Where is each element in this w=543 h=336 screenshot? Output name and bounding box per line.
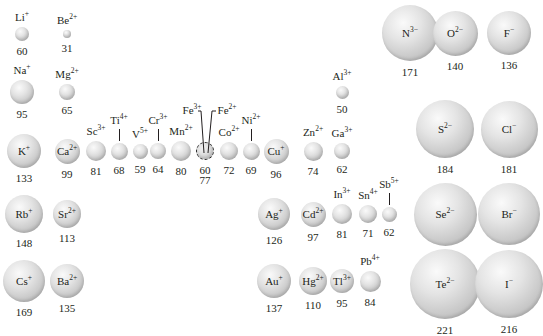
element-symbol: Sb bbox=[379, 178, 391, 190]
ion-charge: 2− bbox=[455, 25, 463, 34]
ion-charge: 2+ bbox=[229, 102, 237, 111]
element-symbol: Cl bbox=[502, 123, 512, 135]
ion-radius-value-2: 77 bbox=[200, 175, 211, 186]
ion-radius-value: 140 bbox=[447, 61, 464, 72]
ion-radius-value: 80 bbox=[176, 166, 187, 177]
ion-label: Cd2+ bbox=[303, 209, 324, 220]
element-symbol: Ga bbox=[332, 127, 345, 139]
ion-label: I− bbox=[505, 279, 513, 290]
ion-sphere-mg bbox=[59, 84, 75, 100]
ion-charge: 3+ bbox=[343, 273, 351, 282]
leader-line bbox=[389, 193, 390, 205]
ion-label: Cs+ bbox=[16, 276, 32, 287]
element-symbol: Rb bbox=[15, 208, 28, 220]
leader-line bbox=[158, 129, 159, 141]
ion-sphere-i: I− bbox=[475, 250, 543, 318]
ion-sphere-al bbox=[336, 86, 349, 99]
ion-charge: 2+ bbox=[68, 206, 76, 215]
element-symbol: Ti bbox=[110, 114, 119, 126]
element-symbol: Hg bbox=[302, 275, 315, 287]
element-symbol: Mg bbox=[55, 68, 70, 80]
element-symbol: Li bbox=[15, 11, 25, 23]
ion-label: Cl− bbox=[502, 124, 517, 135]
ion-charge: + bbox=[28, 206, 32, 215]
ion-radius-value: 221 bbox=[437, 325, 454, 336]
ion-radius-value: 68 bbox=[114, 165, 125, 176]
ion-label: Sr2+ bbox=[58, 209, 76, 220]
ion-label: N3− bbox=[402, 28, 418, 39]
ion-sphere-s: S2− bbox=[416, 100, 474, 158]
ion-charge: 2+ bbox=[315, 206, 323, 215]
leader-line bbox=[119, 129, 120, 141]
ion-charge: + bbox=[279, 206, 283, 215]
ion-label: Cr3+ bbox=[149, 115, 168, 126]
ion-radius-value: 171 bbox=[402, 67, 419, 78]
ion-radius-value: 169 bbox=[16, 307, 33, 318]
ion-charge: + bbox=[280, 143, 284, 152]
ion-radius-value: 50 bbox=[337, 104, 348, 115]
ion-radius-value: 71 bbox=[363, 228, 374, 239]
ion-charge: 2+ bbox=[69, 143, 77, 152]
element-symbol: O bbox=[447, 27, 455, 39]
ion-label: O2− bbox=[447, 28, 463, 39]
ion-label: Sc3+ bbox=[87, 126, 106, 137]
element-symbol: Ag bbox=[265, 208, 278, 220]
ion-sphere-rb: Rb+ bbox=[5, 195, 43, 233]
ion-charge: − bbox=[512, 206, 516, 215]
ion-label: Co2+ bbox=[219, 127, 240, 138]
ion-radius-value: 81 bbox=[337, 229, 348, 240]
ion-sphere-mn bbox=[171, 141, 191, 161]
element-symbol: Na bbox=[13, 64, 26, 76]
element-symbol: Tl bbox=[333, 275, 343, 287]
ion-sphere-ga bbox=[334, 143, 350, 159]
ion-radius-value: 216 bbox=[501, 324, 518, 335]
ion-label: In3+ bbox=[333, 189, 350, 200]
ion-charge: 3− bbox=[410, 25, 418, 34]
ion-label: K+ bbox=[18, 146, 30, 157]
ion-label: Li+ bbox=[15, 12, 29, 23]
element-symbol: Al bbox=[333, 70, 344, 82]
ion-charge: 4+ bbox=[120, 112, 128, 121]
ion-radius-value: 113 bbox=[59, 233, 75, 244]
ion-sphere-br: Br− bbox=[478, 183, 540, 245]
ion-charge: 2+ bbox=[185, 123, 193, 132]
ion-radius-value: 84 bbox=[365, 297, 376, 308]
ion-label: Sb5+ bbox=[379, 179, 399, 190]
ion-label: Au+ bbox=[265, 276, 283, 287]
ion-sphere-v bbox=[133, 144, 148, 159]
ion-radius-value: 62 bbox=[384, 227, 395, 238]
ion-charge: + bbox=[26, 143, 30, 152]
ion-radius-value: 126 bbox=[266, 235, 283, 246]
element-symbol: Cr bbox=[149, 114, 160, 126]
ion-sphere-tl: Tl3+ bbox=[330, 269, 354, 293]
ion-sphere-hg: Hg2+ bbox=[299, 267, 327, 295]
ion-charge: 2− bbox=[446, 276, 454, 285]
ion-label: Tl3+ bbox=[333, 276, 351, 287]
ion-label: Hg2+ bbox=[302, 276, 323, 287]
element-symbol: N bbox=[402, 27, 410, 39]
ion-sphere-o: O2− bbox=[433, 11, 478, 56]
ion-label: Pb4+ bbox=[360, 256, 380, 267]
ion-label: Ni2+ bbox=[242, 115, 261, 126]
ion-charge: 2− bbox=[444, 121, 452, 130]
ion-label: Zn2+ bbox=[303, 127, 323, 138]
ion-sphere-zn bbox=[304, 142, 323, 161]
ion-sphere-li bbox=[15, 27, 29, 41]
ion-sphere-cd: Cd2+ bbox=[301, 202, 326, 227]
ion-charge: 2+ bbox=[69, 273, 77, 282]
ion-radius-value: 69 bbox=[246, 165, 257, 176]
ion-charge: + bbox=[28, 273, 32, 282]
ion-radius-value: 65 bbox=[62, 105, 73, 116]
ion-radius-value: 72 bbox=[224, 165, 235, 176]
element-symbol: Br bbox=[501, 208, 512, 220]
ion-sphere-in bbox=[332, 204, 352, 224]
ion-sphere-n: N3− bbox=[382, 5, 438, 61]
ion-sphere-co bbox=[220, 142, 238, 160]
ion-charge: 3+ bbox=[194, 102, 202, 111]
element-symbol: Cs bbox=[16, 275, 28, 287]
ion-radius-value: 148 bbox=[16, 238, 33, 249]
ion-charge: 5+ bbox=[140, 126, 148, 135]
ion-label: Se2− bbox=[436, 209, 455, 220]
element-symbol: Be bbox=[57, 14, 69, 26]
ion-sphere-f: F− bbox=[487, 11, 531, 55]
